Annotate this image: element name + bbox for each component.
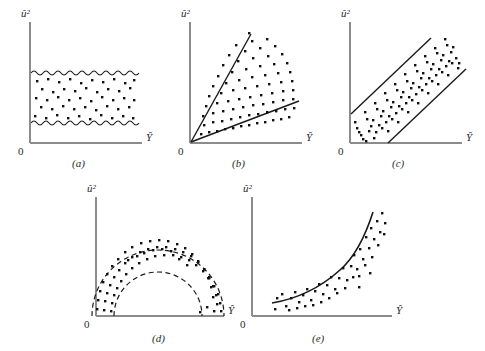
- panel-e-caption: (e): [312, 332, 325, 345]
- panel-e-origin-label: 0: [240, 318, 246, 330]
- panel-c-origin-label: 0: [338, 145, 344, 157]
- panel-b-origin-label: 0: [178, 145, 184, 157]
- panel-d-y-axis-label: û²: [87, 182, 97, 194]
- panel-d-caption: (d): [152, 332, 165, 345]
- panel-a-origin-label: 0: [18, 145, 24, 157]
- panel-b-caption: (b): [232, 157, 245, 170]
- panel-c-y-axis-label: û²: [341, 7, 351, 19]
- panel-a-y-axis-label: û²: [21, 7, 31, 19]
- panel-b-y-axis-label: û²: [181, 7, 191, 19]
- heteroscedasticity-figure: û² Ŷ 0: [0, 0, 485, 351]
- panel-d-origin-label: 0: [84, 318, 90, 330]
- panel-a-caption: (a): [72, 157, 85, 170]
- panel-e-y-axis-label: û²: [243, 182, 253, 194]
- panel-c-caption: (c): [392, 157, 405, 170]
- figure-background: [0, 0, 485, 351]
